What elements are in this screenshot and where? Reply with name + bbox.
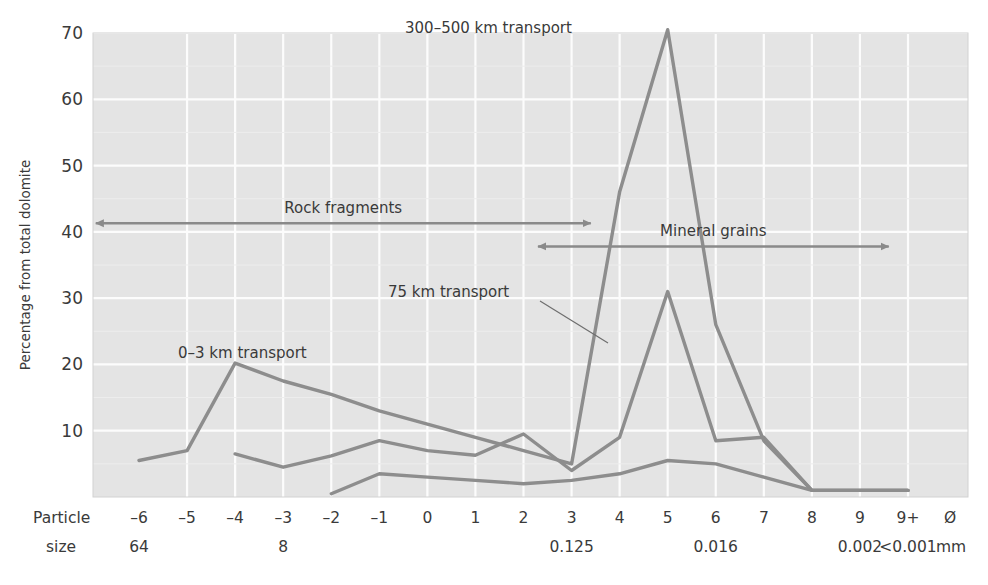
y-axis-ticks: 10203040506070 [61,23,83,441]
x-axis-ticks: –6–5–4–3–2–101234567899+ [130,509,919,527]
x-tick-label: 7 [759,509,769,527]
x-tick-label: –6 [130,509,148,527]
x-tick-label: –4 [226,509,244,527]
x-tick-label: 9+ [897,509,920,527]
y-axis-label: Percentage from total dolomite [17,160,33,370]
y-tick-label: 40 [61,222,83,242]
x-size-label: 0.016 [694,538,738,556]
x-axis-mm-unit: mm [936,538,966,556]
x-tick-label: 2 [519,509,529,527]
x-axis-name-row2: size [46,538,76,556]
x-axis-phi-unit: Ø [944,509,956,527]
x-tick-label: 5 [663,509,673,527]
x-tick-label: –1 [371,509,389,527]
x-size-label: 0.125 [549,538,593,556]
chart-figure: 10203040506070 Percentage from total dol… [0,0,988,585]
x-tick-label: 6 [711,509,721,527]
x-tick-label: 0 [422,509,432,527]
x-tick-label: 9 [855,509,865,527]
x-tick-label: 8 [807,509,817,527]
figure-root: 10203040506070 Percentage from total dol… [0,0,988,585]
x-axis-size-labels: 6480.1250.0160.002<0.001 [129,538,937,556]
series-label-300-500: 300–500 km transport [405,19,572,37]
x-tick-label: 1 [471,509,481,527]
y-tick-label: 50 [61,156,83,176]
span-arrow-label: Mineral grains [660,222,767,240]
y-tick-label: 70 [61,23,83,43]
x-tick-label: 3 [567,509,577,527]
x-tick-label: –3 [274,509,292,527]
y-tick-label: 30 [61,288,83,308]
x-size-label: 8 [278,538,288,556]
y-tick-label: 20 [61,354,83,374]
x-size-label: 64 [129,538,149,556]
series-label-0-3: 0–3 km transport [178,344,307,362]
series-label-75: 75 km transport [388,283,509,301]
x-size-label: <0.001 [879,538,936,556]
span-arrow-label: Rock fragments [284,199,402,217]
chart-svg: 10203040506070 Percentage from total dol… [0,0,988,585]
x-tick-label: –2 [322,509,340,527]
y-tick-label: 60 [61,89,83,109]
x-axis-name-row1: Particle [33,509,90,527]
y-tick-label: 10 [61,421,83,441]
x-tick-label: 4 [615,509,625,527]
x-size-label: 0.002 [838,538,882,556]
x-tick-label: –5 [178,509,196,527]
